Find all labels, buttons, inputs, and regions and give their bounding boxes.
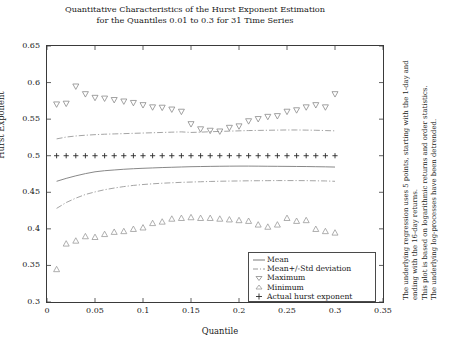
- note-line-2: ending with the 16-day returns.: [411, 189, 419, 300]
- series-mean-std-deviation: [57, 130, 335, 139]
- note-line-1: The underlying regression uses 5 points,…: [402, 60, 410, 300]
- y-tick-0.5: 0.5: [0, 151, 40, 160]
- legend-label: Mean+/-Std deviation: [267, 264, 351, 273]
- solid-line-icon: [251, 256, 267, 264]
- y-axis-label: Hurst Exponent: [0, 65, 6, 185]
- x-tick-0: 0: [27, 306, 67, 315]
- series-actual-hurst-exponent: [54, 153, 338, 158]
- y-tick-0.65: 0.65: [0, 41, 40, 50]
- y-tick-0.4: 0.4: [0, 224, 40, 233]
- legend-label: Mean: [267, 255, 289, 264]
- plus-icon: [251, 292, 267, 300]
- y-tick-0.55: 0.55: [0, 114, 40, 123]
- x-axis-label: Quantile: [160, 326, 280, 336]
- series-mean: [57, 166, 335, 181]
- y-tick-0.3: 0.3: [0, 297, 40, 306]
- legend-item-minimum[interactable]: Minimum: [251, 283, 375, 292]
- series-maximum: [54, 84, 338, 134]
- x-tick-0.3: 0.3: [315, 306, 355, 315]
- chart-legend: MeanMean+/-Std deviationMaximumMinimumAc…: [248, 252, 376, 302]
- series-mean-std-deviation: [57, 181, 335, 209]
- note-line-4: The underlying log-processes have been d…: [430, 119, 438, 300]
- legend-label: Minimum: [267, 283, 304, 292]
- dashdot-line-icon: [251, 265, 267, 273]
- x-tick-0.25: 0.25: [267, 306, 307, 315]
- note-line-3: This plot is based on logarithmic return…: [421, 85, 429, 300]
- legend-label: Actual hurst exponent: [267, 292, 352, 301]
- chart-title-line1: Quantitative Characteristics of the Hurs…: [0, 4, 390, 15]
- y-tick-0.35: 0.35: [0, 260, 40, 269]
- chart-title-line2: for the Quantiles 0.01 to 0.3 for 31 Tim…: [0, 15, 390, 26]
- chart-title: Quantitative Characteristics of the Hurs…: [0, 4, 390, 26]
- legend-item-mean-std-deviation[interactable]: Mean+/-Std deviation: [251, 264, 375, 273]
- x-tick-0.2: 0.2: [219, 306, 259, 315]
- down-triangle-icon: [251, 274, 267, 282]
- x-tick-0.15: 0.15: [171, 306, 211, 315]
- x-tick-0.35: 0.35: [363, 306, 403, 315]
- chart-page: Quantitative Characteristics of the Hurs…: [0, 0, 456, 345]
- y-tick-0.6: 0.6: [0, 78, 40, 87]
- y-tick-0.45: 0.45: [0, 187, 40, 196]
- up-triangle-icon: [251, 283, 267, 291]
- legend-item-actual-hurst-exponent[interactable]: Actual hurst exponent: [251, 292, 375, 301]
- x-tick-0.1: 0.1: [123, 306, 163, 315]
- legend-label: Maximum: [267, 273, 305, 282]
- legend-item-mean[interactable]: Mean: [251, 255, 375, 264]
- legend-item-maximum[interactable]: Maximum: [251, 273, 375, 282]
- x-tick-0.05: 0.05: [75, 306, 115, 315]
